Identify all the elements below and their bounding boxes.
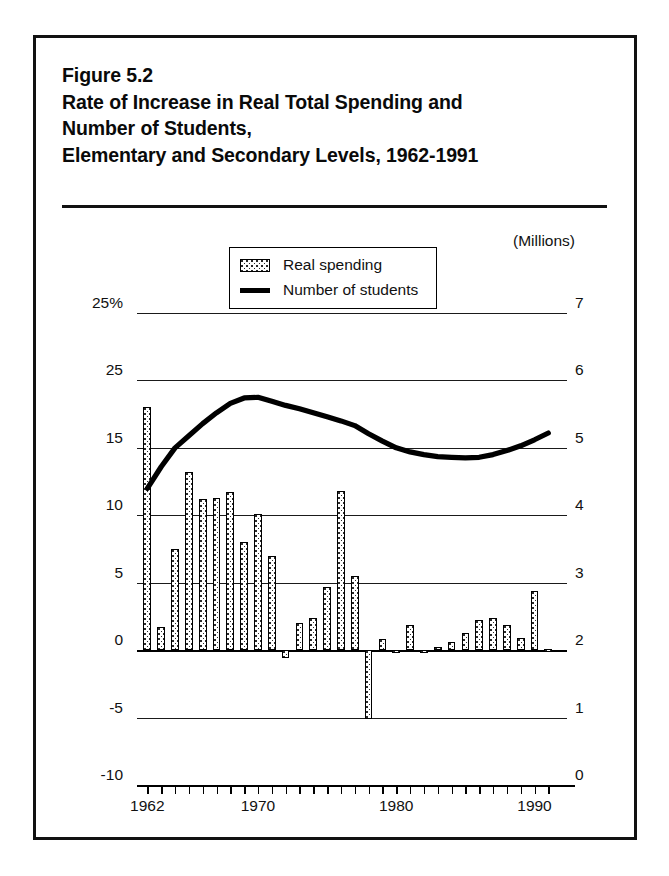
- left-tick-label: 0: [63, 631, 123, 649]
- right-tick-label: 3: [575, 564, 621, 582]
- left-tick-label: 25: [63, 361, 123, 379]
- right-tick-label: 6: [575, 361, 621, 379]
- x-tick: [548, 785, 549, 794]
- x-tick: [438, 785, 439, 794]
- x-tick-label: 1970: [241, 797, 275, 815]
- x-tick: [369, 785, 370, 794]
- x-tick: [272, 785, 273, 794]
- x-tick: [189, 785, 190, 794]
- right-tick-label: 7: [575, 294, 621, 312]
- right-tick-label: 2: [575, 631, 621, 649]
- figure-page: Figure 5.2 Rate of Increase in Real Tota…: [0, 0, 669, 876]
- legend-swatch-line-icon: [240, 288, 270, 293]
- line-series-number-of-students: [137, 313, 567, 785]
- legend-item-number-of-students: Number of students: [240, 278, 418, 302]
- x-tick: [424, 785, 425, 794]
- x-tick: [203, 785, 204, 794]
- legend-swatch-bar-icon: [240, 259, 270, 272]
- x-tick: [286, 785, 287, 794]
- legend-label-number-of-students: Number of students: [283, 281, 418, 299]
- x-tick: [493, 785, 494, 794]
- left-tick-label: 25%: [63, 294, 123, 312]
- x-tick: [147, 785, 148, 794]
- left-tick-label: 10: [63, 496, 123, 514]
- x-tick: [299, 785, 300, 794]
- x-tick: [355, 785, 356, 794]
- x-tick-label: 1962: [130, 797, 164, 815]
- legend-item-real-spending: Real spending: [240, 253, 382, 277]
- x-tick: [410, 785, 411, 794]
- x-tick: [258, 785, 259, 794]
- x-tick: [452, 785, 453, 794]
- x-tick: [175, 785, 176, 794]
- right-tick-label: 5: [575, 429, 621, 447]
- x-tick: [341, 785, 342, 794]
- chart-plot-area: (Millions) 25%25151050-5-10 76543210 196…: [0, 0, 669, 876]
- x-tick-label: 1990: [517, 797, 551, 815]
- x-tick: [521, 785, 522, 794]
- students-polyline: [147, 397, 548, 488]
- chart-legend: Real spending Number of students: [229, 247, 437, 309]
- x-tick: [479, 785, 480, 794]
- right-tick-label: 4: [575, 496, 621, 514]
- x-tick: [217, 785, 218, 794]
- x-tick: [161, 785, 162, 794]
- x-tick: [535, 785, 536, 794]
- legend-label-real-spending: Real spending: [283, 256, 382, 274]
- right-tick-label: 0: [575, 766, 621, 784]
- left-tick-label: -5: [63, 699, 123, 717]
- x-tick: [230, 785, 231, 794]
- left-tick-label: 5: [63, 564, 123, 582]
- right-axis-caption: (Millions): [513, 232, 575, 250]
- x-tick: [465, 785, 466, 794]
- x-tick: [507, 785, 508, 794]
- x-tick-label: 1980: [379, 797, 413, 815]
- x-tick: [396, 785, 397, 794]
- x-tick: [382, 785, 383, 794]
- x-tick: [327, 785, 328, 794]
- x-tick: [244, 785, 245, 794]
- left-tick-label: 15: [63, 429, 123, 447]
- x-tick: [313, 785, 314, 794]
- right-tick-label: 1: [575, 699, 621, 717]
- left-tick-label: -10: [63, 766, 123, 784]
